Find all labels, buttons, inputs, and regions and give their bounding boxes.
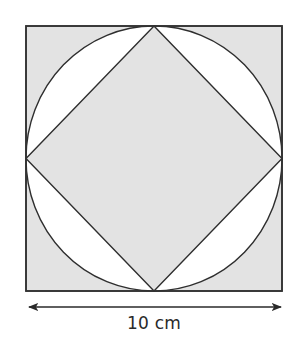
geometry-diagram — [0, 0, 295, 352]
dimension-label: 10 cm — [0, 313, 295, 333]
